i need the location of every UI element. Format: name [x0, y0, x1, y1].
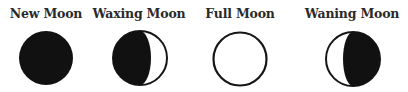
waning-moon-icon [326, 32, 380, 86]
full-moon-icon [214, 33, 267, 86]
waxing-moon-icon [113, 31, 167, 85]
new-moon-icon [19, 31, 73, 85]
